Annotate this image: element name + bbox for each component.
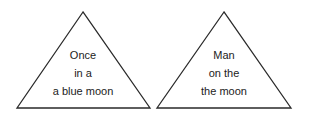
triangle-2-text: Man on the the moon xyxy=(174,46,274,100)
triangle-1-line-1: Once xyxy=(33,46,133,64)
triangle-1-line-3: a blue moon xyxy=(33,82,133,100)
triangle-1-text: Once in a a blue moon xyxy=(33,46,133,100)
triangle-2-line-3: the moon xyxy=(174,82,274,100)
triangle-2-line-2: on the xyxy=(174,64,274,82)
triangle-1-line-2: in a xyxy=(33,64,133,82)
triangle-2-line-1: Man xyxy=(174,46,274,64)
